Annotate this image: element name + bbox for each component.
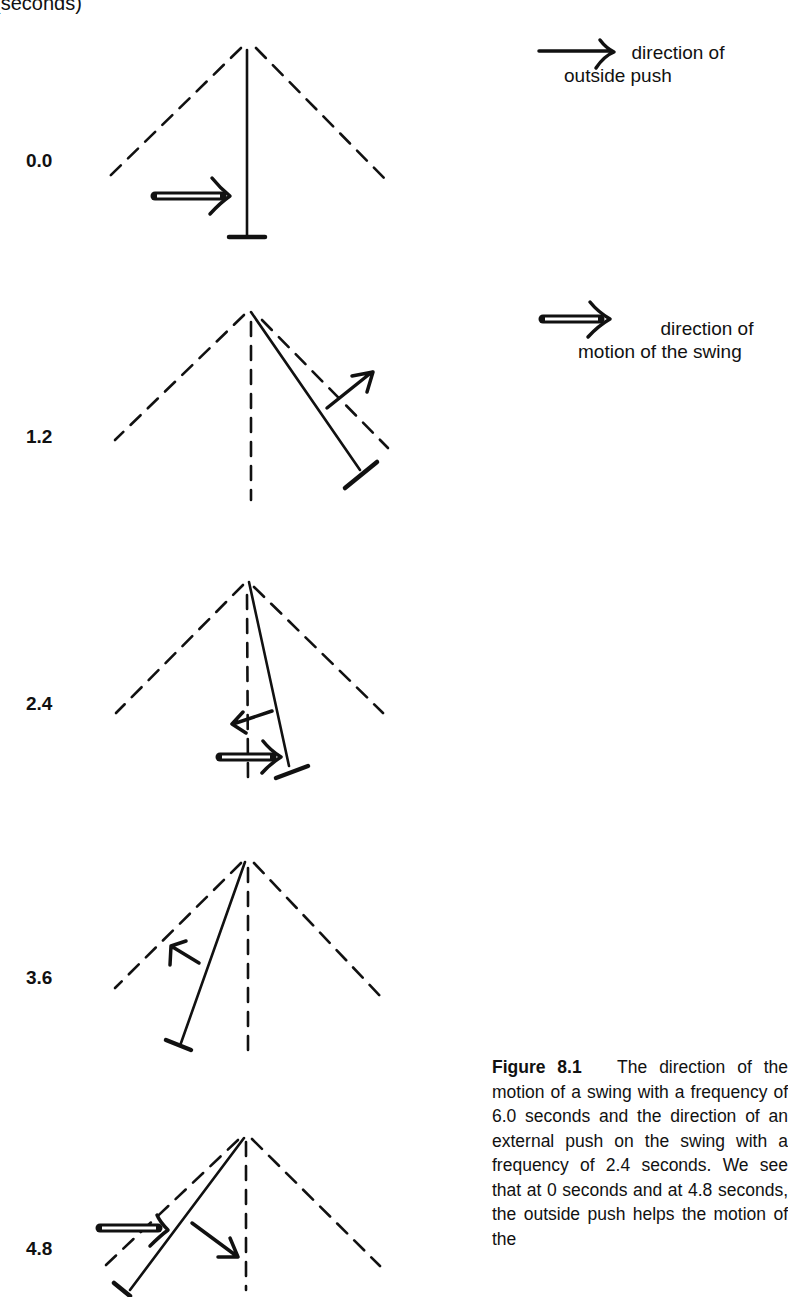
figure-caption: Figure 8.1 The direction of the motion o… (492, 1055, 788, 1251)
outside-push-arrow-icon (327, 372, 373, 408)
legend-swing-motion-line2: motion of the swing (578, 340, 788, 363)
swing-motion-arrow-icon (220, 741, 281, 773)
frame-4 (100, 1138, 380, 1296)
legend-swing-motion-line1: direction of (570, 317, 788, 340)
outside-push-arrow-icon (232, 711, 272, 733)
frame-0 (110, 48, 384, 237)
caption-text: The direction of the motion of a swing w… (492, 1057, 788, 1249)
legend-swing-motion: direction of motion of the swing (570, 317, 788, 363)
outside-push-arrow-icon (170, 941, 199, 965)
outside-push-arrow-icon (192, 1223, 238, 1257)
legend-outside-push: direction of outside push (568, 41, 728, 87)
frame-2 (116, 582, 383, 780)
frame-3 (115, 862, 382, 1056)
figure-label: Figure 8.1 (492, 1057, 582, 1077)
legend-outside-push-line2: outside push (564, 64, 728, 87)
swing-motion-arrow-icon (100, 1215, 168, 1246)
frame-1 (115, 312, 388, 500)
swing-motion-arrow-icon (155, 178, 230, 214)
legend-outside-push-line1: direction of (568, 41, 728, 64)
